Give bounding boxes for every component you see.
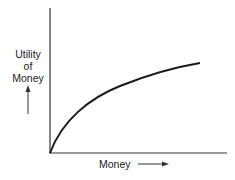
x-axis-label: Money: [99, 158, 131, 170]
y-axis-label-line-2: of: [2, 61, 54, 72]
y-label-arrowhead-icon: [26, 85, 31, 92]
chart-plot: [0, 0, 235, 180]
y-axis-label-line-3: Money: [2, 73, 54, 84]
chart: Utility of Money Money: [0, 0, 235, 180]
utility-curve: [50, 63, 200, 153]
x-label-arrowhead-icon: [162, 162, 169, 167]
y-axis-label-line-1: Utility: [2, 49, 54, 60]
